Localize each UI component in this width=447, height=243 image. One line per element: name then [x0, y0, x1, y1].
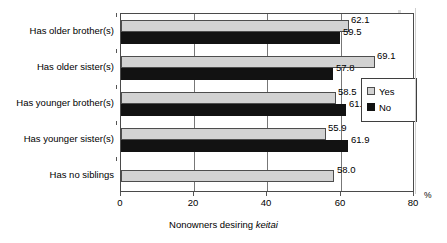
bar-value-label: 58.5 — [338, 86, 357, 97]
bar-chart: Has older brother(s) Has older sister(s)… — [0, 0, 447, 243]
bar-value-label: 62.1 — [351, 14, 370, 25]
bar-yes[interactable] — [121, 20, 349, 32]
bar-value-label: 55.9 — [328, 122, 347, 133]
scan-artifact-line — [415, 8, 416, 194]
category-label: Has younger brother(s) — [16, 97, 114, 108]
bar-no[interactable] — [121, 104, 346, 116]
axis-tick — [193, 192, 194, 196]
axis-tick — [116, 85, 117, 89]
axis-tick — [413, 192, 414, 196]
category-label: Has younger sister(s) — [24, 133, 114, 144]
axis-tick — [116, 13, 117, 17]
category-label: Has older brother(s) — [30, 25, 114, 36]
axis-tick — [266, 192, 267, 196]
xtick-label: 80 — [399, 197, 427, 208]
legend-swatch-yes-icon — [367, 87, 375, 95]
axis-tick — [116, 49, 117, 53]
bar-yes[interactable] — [121, 92, 336, 104]
bar-value-label: 61.9 — [351, 134, 370, 145]
axis-tick — [116, 157, 117, 161]
xtick-label: 20 — [179, 197, 207, 208]
legend-item-yes[interactable]: Yes — [367, 83, 416, 99]
bar-no[interactable] — [121, 140, 348, 152]
x-axis-title-plain: Nonowners desiring — [169, 219, 256, 230]
x-axis-title: Nonowners desiring keitai — [0, 219, 447, 230]
xtick-label: 40 — [252, 197, 280, 208]
scan-artifact-speck — [398, 10, 401, 13]
bar-value-label: 69.1 — [377, 50, 396, 61]
legend-label-no: No — [379, 102, 391, 113]
legend-label-yes: Yes — [379, 86, 395, 97]
xtick-label: 60 — [326, 197, 354, 208]
bar-group — [121, 158, 413, 193]
bar-yes[interactable] — [121, 170, 334, 182]
category-label: Has no siblings — [50, 169, 114, 180]
category-axis-labels: Has older brother(s) Has older sister(s)… — [0, 13, 114, 192]
axis-tick — [120, 192, 121, 196]
legend-item-no[interactable]: No — [367, 99, 416, 115]
legend: Yes No — [361, 78, 417, 122]
bar-no[interactable] — [121, 32, 340, 44]
category-label: Has older sister(s) — [37, 61, 114, 72]
x-axis-title-italic: keitai — [256, 219, 278, 230]
bar-value-label: 59.5 — [343, 26, 362, 37]
legend-swatch-no-icon — [367, 103, 375, 111]
axis-tick — [116, 121, 117, 125]
bar-value-label: 57.8 — [336, 62, 355, 73]
bar-no[interactable] — [121, 68, 333, 80]
axis-tick — [340, 192, 341, 196]
xtick-label: 0 — [106, 197, 134, 208]
bar-value-label: 58.0 — [337, 164, 356, 175]
bar-yes[interactable] — [121, 128, 326, 140]
percent-unit-label: % — [424, 190, 432, 200]
